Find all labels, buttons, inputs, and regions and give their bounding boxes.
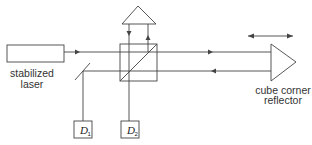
reference-reflector xyxy=(122,6,156,24)
arrowhead-down xyxy=(127,31,132,36)
arrowhead-return xyxy=(211,69,216,74)
arrowhead-right-icon xyxy=(287,34,293,39)
reflector-label-line2: reflector xyxy=(264,94,302,106)
laser-box xyxy=(7,45,64,62)
interferometer-diagram: stabilized laser cube corner reflector D… xyxy=(0,0,312,145)
arrowhead-left-icon xyxy=(248,34,254,39)
beam-splitter-diagonal xyxy=(120,44,157,81)
arrowhead-up xyxy=(146,35,151,40)
pickoff-mirror xyxy=(75,63,90,80)
detector-d1-subscript: 1 xyxy=(88,131,92,137)
laser-label-line2: laser xyxy=(21,78,44,90)
cube-corner-reflector xyxy=(271,44,296,81)
arrowhead-forward xyxy=(208,50,213,55)
detector-d2-subscript: 2 xyxy=(135,131,139,137)
arrowhead-laser-out xyxy=(75,50,80,55)
